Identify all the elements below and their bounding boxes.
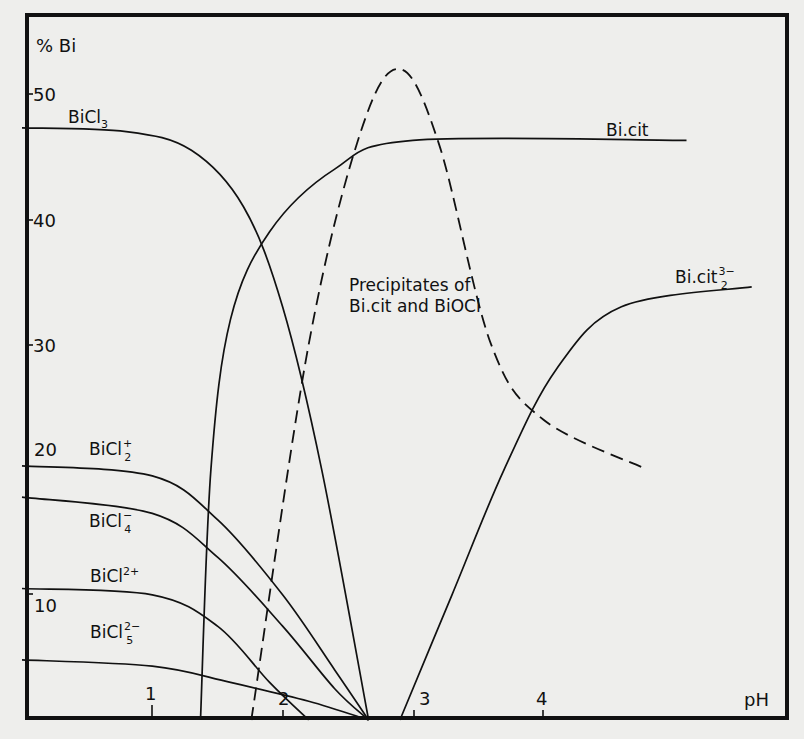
curve-bicl2 bbox=[22, 466, 369, 720]
y-tick-label-20: 20 bbox=[34, 439, 57, 460]
curve-bicl5-2 bbox=[22, 660, 369, 720]
x-axis-title: pH bbox=[744, 689, 769, 710]
y-tick-label-50: 50 bbox=[33, 84, 56, 105]
curve-bicl4 bbox=[22, 497, 369, 720]
curve-bicl3 bbox=[22, 128, 369, 720]
label-bicl-2plus: BiCl2+ bbox=[90, 565, 139, 586]
label-precipitates-line1: Precipitates of bbox=[349, 275, 471, 295]
speciation-chart: 50 40 30 20 10 1 2 3 4 % Bi pH BiCl3 BiC… bbox=[0, 0, 804, 739]
curve-bi-cit bbox=[201, 138, 687, 720]
label-bicl4-minus: BiCl−4 bbox=[89, 509, 132, 536]
y-tick-label-10: 10 bbox=[34, 595, 57, 616]
curve-bi-cit-3-2 bbox=[400, 287, 752, 720]
label-bi-cit: Bi.cit bbox=[606, 120, 649, 140]
curve-precipitates-of-bi-cit-and-biocl bbox=[251, 69, 647, 720]
y-tick-label-40: 40 bbox=[33, 210, 56, 231]
x-tick-label-1: 1 bbox=[145, 683, 156, 704]
label-bicl2-plus: BiCl+2 bbox=[89, 437, 132, 464]
label-bicl5-2minus: BiCl2−5 bbox=[90, 620, 140, 647]
x-tick-label-2: 2 bbox=[278, 688, 289, 709]
label-bi-cit-3-2-minus: Bi.cit3−2 bbox=[675, 265, 735, 292]
label-bicl3: BiCl3 bbox=[68, 107, 108, 131]
y-axis-title: % Bi bbox=[36, 35, 76, 56]
plot-frame bbox=[27, 15, 787, 718]
y-axis-ticks: 50 40 30 20 10 bbox=[27, 84, 57, 616]
label-precipitates-line2: Bi.cit and BiOCl bbox=[349, 296, 481, 316]
y-tick-label-30: 30 bbox=[33, 335, 56, 356]
x-tick-label-3: 3 bbox=[419, 688, 430, 709]
x-tick-label-4: 4 bbox=[536, 688, 547, 709]
